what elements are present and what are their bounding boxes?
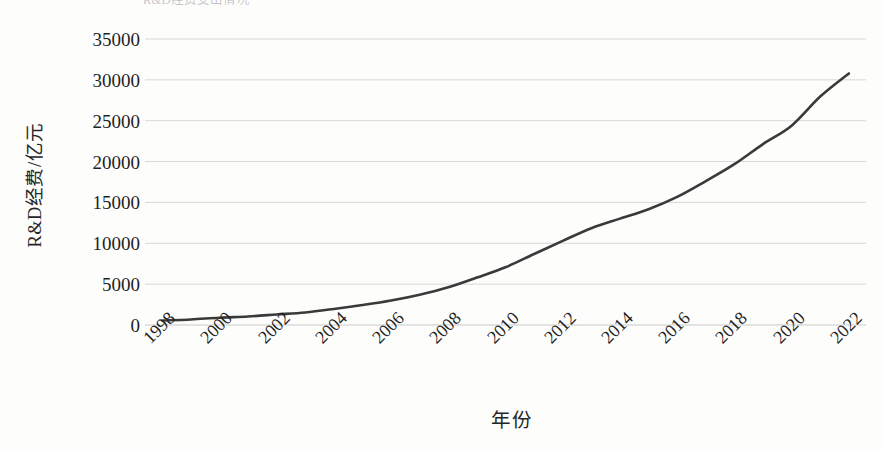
- x-tick-label: 2016: [655, 309, 693, 347]
- x-tick-label: 2008: [426, 309, 464, 347]
- figure-page: R&D经费支出情况 R&D经费/亿元 050001000015000200002…: [0, 0, 883, 451]
- x-tick-label: 2006: [369, 309, 407, 347]
- x-tick-label: 2020: [770, 309, 808, 347]
- x-tick-label: 2004: [312, 309, 350, 347]
- x-tick-label: 2012: [541, 309, 579, 347]
- x-tick-label: 2010: [484, 309, 522, 347]
- x-tick-label: 2022: [827, 309, 865, 347]
- line-chart: R&D经费/亿元 0500010000150002000025000300003…: [0, 0, 883, 451]
- x-tick-label: 1998: [140, 309, 178, 347]
- x-axis-title-label: 年份: [351, 410, 533, 431]
- x-tick-label: 2018: [712, 309, 750, 347]
- x-tick-label: 2014: [598, 309, 636, 347]
- x-tick-label: 2002: [255, 309, 293, 347]
- x-axis-tick-labels: 1998200020022004200620082010201220142016…: [0, 0, 883, 451]
- x-tick-label: 2000: [197, 309, 235, 347]
- x-axis-title: 年份: [0, 404, 883, 433]
